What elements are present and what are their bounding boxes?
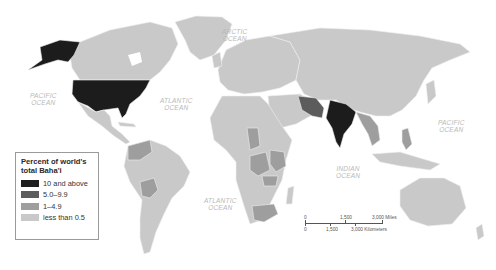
ocean-label-pacific-west: PACIFIC OCEAN xyxy=(30,92,57,106)
ocean-label-line: OCEAN xyxy=(30,99,57,106)
south-africa xyxy=(252,204,278,222)
legend-item-under-0-5: less than 0.5 xyxy=(21,213,93,223)
legend-title: Percent of world's total Baha'i xyxy=(21,157,93,175)
ocean-label-line: OCEAN xyxy=(438,126,465,133)
legend-label: 1–4.9 xyxy=(43,202,62,211)
legend-item-1-4: 1–4.9 xyxy=(21,201,93,211)
scale-km-0: 0 xyxy=(304,227,307,232)
philippines xyxy=(402,128,412,150)
canada xyxy=(70,22,178,80)
map-legend: Percent of world's total Baha'i 10 and a… xyxy=(15,152,99,240)
southeast-asia xyxy=(356,112,380,146)
scale-km-3000: 3,000 Kilometers xyxy=(351,227,387,232)
ocean-label-line: PACIFIC xyxy=(438,119,465,126)
scale-tick xyxy=(355,223,356,226)
legend-item-10-plus: 10 and above xyxy=(21,178,93,188)
ocean-label-line: OCEAN xyxy=(160,104,193,111)
scale-miles-1500: 1,500 xyxy=(340,215,352,220)
scale-bar: 0 1,500 3,000 Miles 0 1,500 3,000 Kilome… xyxy=(300,214,420,244)
europe xyxy=(218,36,300,94)
legend-swatch xyxy=(21,214,39,221)
legend-swatch xyxy=(21,203,39,210)
ocean-label-pacific-east: PACIFIC OCEAN xyxy=(438,119,465,133)
legend-label: 10 and above xyxy=(43,179,88,188)
scale-km-1500: 1,500 xyxy=(326,227,338,232)
ocean-label-indian: INDIAN OCEAN xyxy=(336,165,360,179)
ocean-label-line: OCEAN xyxy=(336,172,360,179)
scale-line xyxy=(305,223,383,224)
ocean-label-line: PACIFIC xyxy=(30,92,57,99)
scale-tick xyxy=(345,220,346,223)
legend-title-line2: total Baha'i xyxy=(21,166,93,175)
scale-tick xyxy=(330,223,331,226)
ocean-label-line: ATLANTIC xyxy=(160,97,193,104)
legend-label: less than 0.5 xyxy=(43,213,85,222)
ocean-label-atlantic-north: ATLANTIC OCEAN xyxy=(160,97,193,111)
usa xyxy=(72,80,150,118)
ocean-label-line: ARCTIC xyxy=(222,28,247,35)
legend-item-5-9: 5.0–9.9 xyxy=(21,190,93,200)
legend-title-line1: Percent of world's xyxy=(21,157,93,166)
scale-miles-3000: 3,000 Miles xyxy=(372,215,397,220)
ocean-label-line: ATLANTIC xyxy=(204,197,237,204)
ocean-label-atlantic-south: ATLANTIC OCEAN xyxy=(204,197,237,211)
zambia xyxy=(262,176,278,186)
ocean-label-line: INDIAN xyxy=(336,165,360,172)
scale-tick xyxy=(305,223,306,226)
scale-tick xyxy=(382,220,383,223)
legend-label: 5.0–9.9 xyxy=(43,190,68,199)
legend-swatch xyxy=(21,180,39,187)
legend-swatch xyxy=(21,191,39,198)
ocean-label-line: OCEAN xyxy=(204,204,237,211)
indonesia xyxy=(372,152,440,170)
ocean-label-arctic: ARCTIC OCEAN xyxy=(222,28,247,42)
ocean-label-line: OCEAN xyxy=(222,35,247,42)
